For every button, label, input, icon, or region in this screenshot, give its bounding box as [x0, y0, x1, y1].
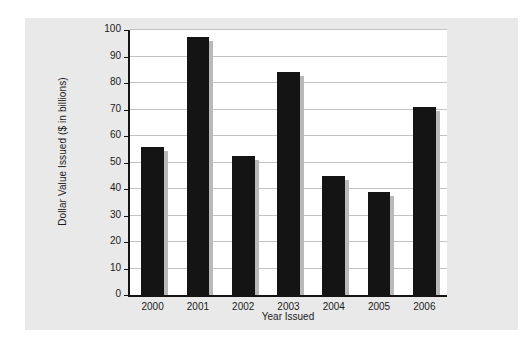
bar-2005 [368, 192, 391, 295]
y-tick-label: 40 [110, 182, 121, 193]
y-axis-title: Dollar Value Issued ($ in billions) [57, 52, 68, 252]
plot-area: 0102030405060708090100 20002001200220032… [128, 30, 447, 297]
bar-2002 [232, 156, 255, 295]
y-tick-mark [124, 295, 130, 296]
y-tick-label: 0 [115, 288, 121, 299]
chart-figure: Dollar Value Issued ($ in billions) 0102… [25, 18, 518, 330]
bar-slot: 2003 [277, 30, 300, 295]
y-tick-label: 80 [110, 76, 121, 87]
y-tick-label: 30 [110, 209, 121, 220]
y-tick-mark [124, 136, 130, 137]
y-tick-label: 50 [110, 156, 121, 167]
y-tick-mark [124, 269, 130, 270]
bar-slot: 2001 [187, 30, 210, 295]
bar-2003 [277, 72, 300, 295]
y-tick-mark [124, 189, 130, 190]
y-tick-label: 90 [110, 50, 121, 61]
bar-slot: 2002 [232, 30, 255, 295]
y-tick-mark [124, 57, 130, 58]
y-tick-label: 100 [104, 23, 121, 34]
bar-slot: 2004 [322, 30, 345, 295]
y-tick-mark [124, 30, 130, 31]
y-tick-mark [124, 110, 130, 111]
bar-2006 [413, 107, 436, 295]
y-tick-label: 60 [110, 129, 121, 140]
y-tick-label: 10 [110, 262, 121, 273]
y-tick-mark [124, 216, 130, 217]
bar-slot: 2000 [141, 30, 164, 295]
bar-slot: 2006 [413, 30, 436, 295]
bar-2000 [141, 147, 164, 295]
y-tick-label: 20 [110, 235, 121, 246]
y-tick-mark [124, 242, 130, 243]
bar-2004 [322, 176, 345, 295]
bar-slot: 2005 [368, 30, 391, 295]
bar-2001 [187, 37, 210, 295]
y-tick-mark [124, 163, 130, 164]
x-axis-title: Year Issued [128, 311, 448, 322]
y-tick-mark [124, 83, 130, 84]
y-tick-label: 70 [110, 103, 121, 114]
